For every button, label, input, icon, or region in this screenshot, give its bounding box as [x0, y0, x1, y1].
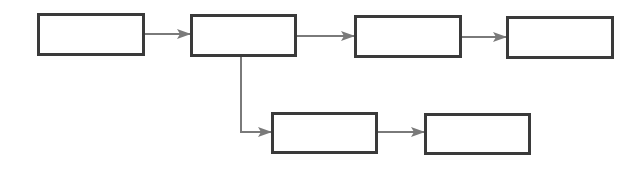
process-box-5 — [271, 112, 378, 154]
process-box-3 — [354, 15, 462, 58]
process-box-4 — [506, 16, 614, 59]
flowchart-canvas — [0, 0, 642, 172]
edge-n2-n5 — [241, 57, 271, 132]
process-box-1 — [37, 13, 145, 56]
process-box-6 — [424, 113, 531, 155]
process-box-2 — [190, 14, 297, 57]
